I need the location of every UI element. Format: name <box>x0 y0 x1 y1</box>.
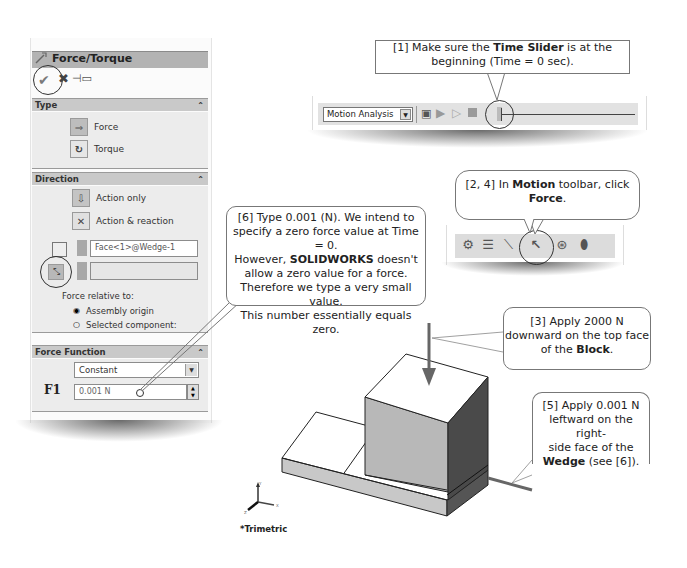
section-header-type[interactable]: Type ⌃ <box>32 98 208 111</box>
face-selection-icon <box>52 242 67 257</box>
collapse-chevron-icon[interactable]: ⌃ <box>197 173 204 186</box>
pushpin-icon: ⊣▭ <box>72 72 92 85</box>
timeline-track[interactable] <box>502 114 635 115</box>
highlight-circle <box>40 256 72 288</box>
dropdown-arrow-icon: ▼ <box>400 109 411 120</box>
x-icon: ✖ <box>58 71 69 86</box>
function-type-value: Constant <box>79 365 117 375</box>
action-only-button[interactable]: ⇩ <box>72 189 90 207</box>
callout-time-slider: [1] Make sure the Time Slider is at the … <box>375 40 630 74</box>
callout-wedge-force: [5] Apply 0.001 N leftward on the right-… <box>532 392 650 464</box>
collapse-chevron-icon[interactable]: ⌃ <box>197 99 204 112</box>
cancel-button[interactable]: ✖ <box>58 71 69 86</box>
force-torque-icon <box>35 52 47 64</box>
study-type-value: Motion Analysis <box>327 109 394 119</box>
section-title: Type <box>35 100 57 110</box>
direction-color-swatch <box>77 262 87 280</box>
z-axis-label: Z <box>244 510 247 515</box>
torque-type-button[interactable]: ↻ <box>70 140 88 158</box>
coordinate-triad: Y X Z <box>240 480 290 520</box>
toolbar-shadow <box>305 130 650 148</box>
f1-label: F1 <box>44 383 61 397</box>
face-color-swatch <box>77 240 87 256</box>
force-arrow-icon: ⇒ <box>75 122 83 133</box>
radio-selected-component[interactable]: ○ <box>73 320 80 329</box>
force-label: Force <box>94 122 118 132</box>
y-axis-label: Y <box>258 481 262 486</box>
section-header-direction[interactable]: Direction ⌃ <box>32 172 208 185</box>
view-orientation-label: *Trimetric <box>240 524 287 534</box>
action-reaction-icon: ✕ <box>77 216 85 227</box>
callout-zero-force: [6] Type 0.001 (N). We intend to specify… <box>226 206 426 306</box>
section-body-type <box>32 112 208 169</box>
wedge-force-arrow <box>488 478 532 490</box>
panel-shadow <box>14 420 224 442</box>
action-only-icon: ⇩ <box>77 193 85 204</box>
force-type-button[interactable]: ⇒ <box>70 118 88 136</box>
radio-assembly-origin[interactable]: ◉ <box>73 306 80 315</box>
section-title: Direction <box>35 174 79 184</box>
section-title: Force Function <box>35 347 106 357</box>
callout-block-force: [3] Apply 2000 N downward on the top fac… <box>503 307 651 370</box>
pin-button[interactable]: ⊣▭ <box>72 72 92 85</box>
property-manager-title: Force/Torque <box>52 52 132 65</box>
callout-click-force: [2, 4] In Motion toolbar, click Force. <box>455 170 640 220</box>
torque-icon: ↻ <box>75 144 83 155</box>
callout-24-tail <box>520 215 550 235</box>
torque-label: Torque <box>94 144 124 154</box>
action-reaction-button[interactable]: ✕ <box>72 212 90 230</box>
x-axis-label: X <box>276 503 279 508</box>
force-relative-label: Force relative to: <box>62 291 134 301</box>
